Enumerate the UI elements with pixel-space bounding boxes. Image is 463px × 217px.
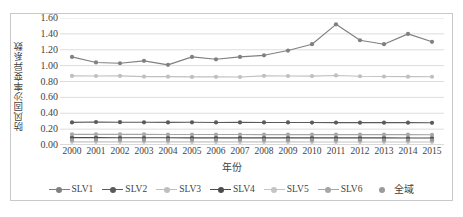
y-axis-tick-labels: 0.000.200.400.600.801.001.201.401.60 [26, 18, 58, 145]
data-point [142, 59, 146, 63]
data-point [190, 138, 194, 142]
data-point [214, 138, 218, 142]
y-tick-label: 1.20 [41, 45, 59, 55]
legend-marker-icon [264, 185, 285, 194]
x-tick-label: 2012 [351, 147, 370, 157]
data-point [190, 120, 194, 124]
series-slv2 [70, 120, 434, 125]
chart-screenshot: 防风固沙率变异系数 0.000.200.400.600.801.001.201.… [0, 0, 463, 217]
legend-item-slv1[interactable]: SLV1 [49, 185, 94, 195]
data-point [358, 121, 362, 125]
data-point [94, 138, 98, 142]
data-point [238, 138, 242, 142]
x-tick-label: 2007 [231, 147, 250, 157]
data-point [262, 74, 266, 78]
data-point [334, 121, 338, 125]
x-tick-label: 2002 [111, 147, 130, 157]
legend-item-slv3[interactable]: SLV3 [156, 185, 201, 195]
x-tick-label: 2009 [279, 147, 298, 157]
data-point [382, 74, 386, 78]
data-point [142, 132, 146, 136]
x-tick-label: 2001 [87, 147, 106, 157]
legend-item-slv2[interactable]: SLV2 [102, 185, 147, 195]
series-line [72, 75, 432, 77]
data-point [214, 75, 218, 79]
gridlines [60, 18, 444, 145]
data-point [262, 133, 266, 137]
legend-item-slv6[interactable]: SLV6 [318, 185, 363, 195]
data-point [334, 22, 338, 26]
y-tick-label: 0.00 [41, 140, 59, 150]
legend-label: 全域 [394, 185, 414, 195]
legend-item-slv4[interactable]: SLV4 [210, 185, 255, 195]
data-point [310, 120, 314, 124]
series-line [72, 122, 432, 123]
data-point [286, 48, 290, 52]
data-point [190, 75, 194, 79]
data-point [286, 133, 290, 137]
data-point [430, 133, 434, 137]
data-point [382, 121, 386, 125]
data-point [334, 138, 338, 142]
data-point [262, 120, 266, 124]
x-axis-tick-labels: 2000200120022003200420052006200720082009… [60, 147, 444, 161]
data-point [310, 74, 314, 78]
x-tick-label: 2004 [159, 147, 178, 157]
data-point [70, 120, 74, 124]
y-axis-title: 防风固沙率变异系数 [13, 16, 27, 156]
data-point [118, 74, 122, 78]
y-tick-label: 1.40 [41, 29, 59, 39]
data-point [358, 138, 362, 142]
data-point [430, 138, 434, 142]
data-point [430, 121, 434, 125]
data-point [286, 120, 290, 124]
legend-marker-icon [49, 185, 70, 194]
x-tick-label: 2005 [183, 147, 202, 157]
series-slv6 [70, 132, 434, 137]
data-point [166, 132, 170, 136]
data-point [142, 120, 146, 124]
data-point [166, 138, 170, 142]
data-point [334, 73, 338, 77]
series-slv4 [70, 136, 434, 141]
y-tick-label: 0.20 [41, 124, 59, 134]
data-point [286, 74, 290, 78]
data-point [430, 75, 434, 79]
data-point [358, 74, 362, 78]
data-point [382, 133, 386, 137]
data-point [358, 38, 362, 42]
data-point [166, 75, 170, 79]
y-tick-label: 1.00 [41, 61, 59, 71]
data-point [142, 138, 146, 142]
x-tick-label: 2000 [63, 147, 82, 157]
legend-marker-icon [371, 185, 392, 194]
x-tick-label: 2011 [327, 147, 346, 157]
data-point [286, 138, 290, 142]
data-point [118, 138, 122, 142]
legend-label: SLV5 [287, 185, 309, 195]
legend-item-全域[interactable]: 全域 [371, 185, 414, 195]
y-tick-label: 0.60 [41, 92, 59, 102]
data-point [190, 132, 194, 136]
data-point [406, 138, 410, 142]
data-point [94, 74, 98, 78]
legend-label: SLV4 [233, 185, 255, 195]
data-point [94, 60, 98, 64]
legend-item-slv5[interactable]: SLV5 [264, 185, 309, 195]
data-point [142, 74, 146, 78]
series-slv3 [70, 73, 434, 79]
data-point [214, 57, 218, 61]
legend-marker-icon [102, 185, 123, 194]
data-point [166, 63, 170, 67]
y-axis-title-text: 防风固沙率变异系数 [15, 41, 25, 131]
legend-label: SLV2 [125, 185, 147, 195]
x-tick-label: 2014 [399, 147, 418, 157]
plot-area [60, 18, 444, 145]
legend-marker-icon [210, 185, 231, 194]
data-point [118, 120, 122, 124]
chart-legend: SLV1SLV2SLV3SLV4SLV5SLV6全域 [12, 182, 451, 197]
x-axis-title-text: 年份 [222, 162, 242, 173]
y-tick-label: 1.60 [41, 13, 59, 23]
data-point [94, 132, 98, 136]
data-point [430, 40, 434, 44]
